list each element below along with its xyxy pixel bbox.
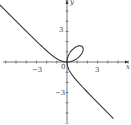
origin-label: 0 [61,64,65,71]
x-axis-label: x [126,64,130,71]
x-tick-label-3: 3 [95,67,99,74]
y-tick-label-3: 3 [59,27,63,34]
folium-plot [0,0,131,125]
x-tick-label-neg3: −3 [32,67,42,74]
y-axis-label: y [70,0,74,6]
y-tick-label-neg3: −3 [55,90,65,97]
